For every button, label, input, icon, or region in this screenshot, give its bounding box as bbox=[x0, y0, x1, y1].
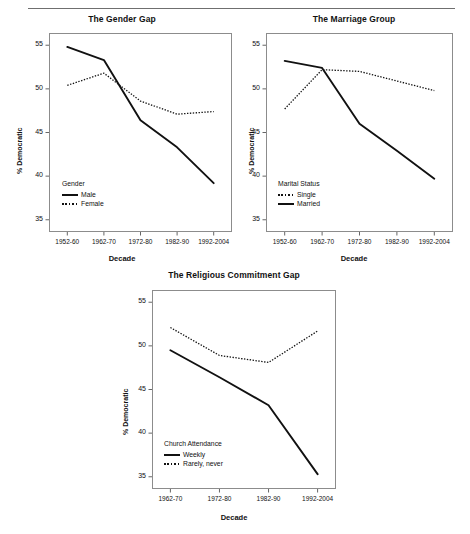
data-series-line bbox=[170, 350, 317, 474]
plot-lines bbox=[6, 14, 238, 264]
data-series-line bbox=[170, 328, 317, 363]
chart-panel-gender-gap: The Gender Gap % Democratic Decade Gende… bbox=[6, 14, 238, 264]
chart-panel-marriage-group: The Marriage Group % Democratic Decade M… bbox=[240, 14, 468, 264]
plot-lines bbox=[114, 270, 354, 525]
data-series-line bbox=[67, 47, 213, 183]
header-rule bbox=[28, 8, 455, 9]
data-series-line bbox=[285, 61, 435, 179]
data-series-line bbox=[285, 70, 435, 109]
data-series-line bbox=[67, 73, 213, 114]
chart-panel-religious-commitment-gap: The Religious Commitment Gap % Democrati… bbox=[114, 270, 354, 525]
plot-lines bbox=[240, 14, 468, 264]
